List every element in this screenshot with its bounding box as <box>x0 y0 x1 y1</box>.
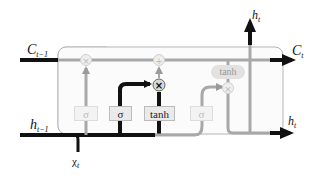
cell-tanh-op: tanh <box>211 65 245 79</box>
label-c-next: Ct <box>292 44 304 60</box>
svg-text:×: × <box>224 84 232 94</box>
svg-text:×: × <box>82 56 90 66</box>
input-gate-sigma: σ <box>109 106 132 121</box>
label-h-right: ht <box>288 115 296 130</box>
label-h-prev: ht−1 <box>30 118 49 134</box>
output-gate-sigma: σ <box>190 106 213 121</box>
label-h-top: ht <box>252 9 260 24</box>
forget-mul-op: × <box>81 55 92 66</box>
x-input-line <box>75 135 78 152</box>
output-mul-op: × <box>223 83 234 94</box>
svg-text:×: × <box>155 80 163 91</box>
input-mul-op: × <box>153 79 165 91</box>
label-c-prev: Ct−1 <box>27 43 48 59</box>
lstm-diagram: × + × × σ σ tanh σ tanh Ct−1 Ct ht−1 ht … <box>0 0 318 176</box>
cell-add-op: + <box>154 55 165 66</box>
label-x-input: χt <box>72 156 79 170</box>
candidate-tanh: tanh <box>144 106 175 121</box>
forget-gate-sigma: σ <box>74 106 98 121</box>
svg-text:+: + <box>155 56 163 66</box>
lstm-svg: × + × × <box>0 0 318 176</box>
